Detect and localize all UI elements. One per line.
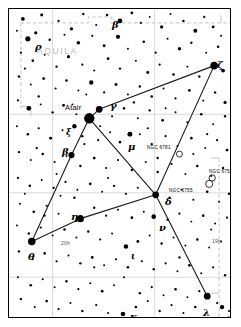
constellation-boundary bbox=[21, 15, 230, 317]
deep-sky-objects bbox=[176, 151, 215, 187]
sky-canvas bbox=[9, 9, 230, 317]
constellation-lines bbox=[32, 66, 214, 297]
star-chart-figure: βρζγξβμδηνθιλκNGC 6781NGC 6756NGC 675520… bbox=[0, 0, 241, 327]
field-stars bbox=[16, 12, 230, 314]
coordinate-grid bbox=[9, 9, 230, 317]
sky-chart-frame: βρζγξβμδηνθιλκNGC 6781NGC 6756NGC 675520… bbox=[8, 8, 231, 318]
